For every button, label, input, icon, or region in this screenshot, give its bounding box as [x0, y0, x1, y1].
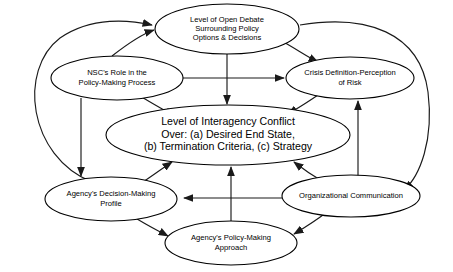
node-label-open-debate-line-1: Level of Open Debate [190, 15, 264, 24]
node-label-organizational-communication-line-1: Organizational Communication [299, 191, 403, 200]
node-label-open-debate-line-3: Options & Decisions [193, 33, 262, 42]
node-label-interagency-conflict-line-1: Level of Interagency Conflict [161, 115, 295, 127]
node-open-debate[interactable]: Level of Open DebateSurrounding PolicyOp… [155, 4, 299, 54]
node-agency-decision-profile[interactable]: Agency's Decision-MakingProfile [45, 177, 177, 221]
node-label-agency-policy-approach-line-1: Agency's Policy-Making [191, 233, 271, 242]
influence-diagram: Level of Open DebateSurrounding PolicyOp… [0, 0, 453, 272]
node-layer: Level of Open DebateSurrounding PolicyOp… [45, 4, 420, 265]
node-crisis-definition[interactable]: Crisis Definition-Perceptionof Risk [286, 57, 414, 99]
edge-profile-to-open-debate-left-curve [35, 21, 152, 182]
node-label-agency-policy-approach-line-2: Approach [215, 243, 248, 252]
node-label-crisis-definition-line-2: of Risk [338, 78, 361, 87]
edge-orgcomm-to-open-debate-right-curve [300, 22, 429, 190]
edge-profile-to-approach [134, 217, 168, 236]
node-label-agency-decision-profile-line-1: Agency's Decision-Making [67, 189, 156, 198]
node-label-agency-decision-profile-line-2: Profile [100, 199, 122, 208]
node-organizational-communication[interactable]: Organizational Communication [282, 175, 420, 217]
edge-nsc-to-open-debate [112, 30, 154, 56]
node-label-crisis-definition-line-1: Crisis Definition-Perception [304, 68, 396, 77]
node-label-nsc-role-line-1: NSC's Role in the [87, 68, 147, 77]
node-label-interagency-conflict-line-3: (b) Termination Criteria, (c) Strategy [144, 140, 313, 152]
node-agency-policy-approach[interactable]: Agency's Policy-MakingApproach [165, 221, 297, 265]
node-label-nsc-role-line-2: Policy-Making Process [79, 78, 156, 87]
node-label-open-debate-line-2: Surrounding Policy [195, 24, 259, 33]
node-nsc-role[interactable]: NSC's Role in thePolicy-Making Process [51, 56, 183, 100]
node-label-interagency-conflict-line-2: Over: (a) Desired End State, [161, 128, 295, 140]
node-interagency-conflict[interactable]: Level of Interagency ConflictOver: (a) D… [106, 105, 350, 165]
diagram-canvas: Level of Open DebateSurrounding PolicyOp… [0, 0, 453, 272]
